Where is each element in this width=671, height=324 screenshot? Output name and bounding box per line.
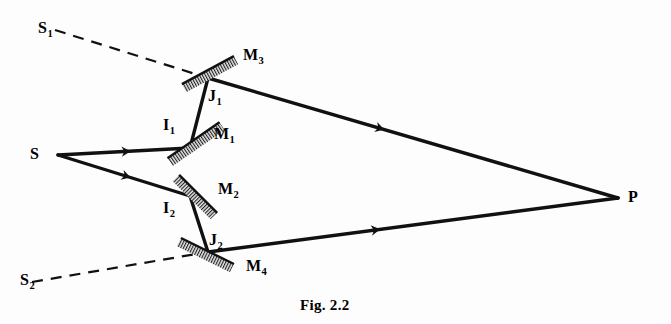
optics-ray-diagram (0, 0, 671, 324)
point-label-i1-subscript: 1 (169, 125, 175, 136)
ray-S2-J2 (32, 252, 208, 282)
point-label-j2-base: J (209, 231, 217, 248)
mirror-label-m2-subscript: 2 (233, 189, 239, 200)
point-label-p: P (628, 189, 638, 205)
point-label-s1: S1 (38, 20, 53, 40)
point-label-s1-subscript: 1 (47, 28, 53, 39)
mirror-label-m4-base: M (246, 257, 261, 274)
mirror-label-m1-base: M (214, 125, 229, 142)
figure-container: SS1S2I1I2J1J2PM1M2M3M4 Fig. 2.2 (0, 0, 671, 324)
point-label-j1-subscript: 1 (216, 96, 222, 107)
mirror-label-m2-base: M (218, 180, 233, 197)
mirror-label-m3-subscript: 3 (258, 55, 264, 66)
ray-J1-P-line (208, 78, 618, 198)
mirror-label-m1-subscript: 1 (229, 134, 235, 145)
point-label-i2-subscript: 2 (169, 208, 175, 219)
ray-S2-J2-line (32, 252, 208, 282)
point-label-j1-base: J (208, 87, 216, 104)
mirror-label-m1: M1 (214, 126, 235, 146)
mirror-label-m4: M4 (246, 258, 267, 278)
rays-layer (32, 30, 618, 282)
point-label-s-base: S (30, 145, 39, 162)
point-label-s: S (30, 146, 39, 162)
point-label-p-base: P (628, 188, 638, 205)
point-label-j2-subscript: 2 (217, 240, 223, 251)
figure-caption: Fig. 2.2 (300, 297, 349, 314)
point-label-s2: S2 (20, 272, 35, 292)
ray-J2-P-line (208, 198, 618, 252)
mirror-label-m3-base: M (243, 46, 258, 63)
point-label-s1-base: S (38, 19, 47, 36)
point-label-j1: J1 (208, 88, 222, 108)
ray-S1-J1 (55, 30, 208, 78)
ray-J2-P (208, 198, 618, 252)
ray-J1-P (208, 78, 618, 198)
point-label-j2: J2 (209, 232, 223, 252)
ray-S1-J1-line (55, 30, 208, 78)
mirror-label-m2: M2 (218, 181, 239, 201)
point-label-i1: I1 (163, 117, 175, 137)
mirror-label-m4-subscript: 4 (261, 266, 267, 277)
point-label-s2-base: S (20, 271, 29, 288)
point-label-i2: I2 (163, 200, 175, 220)
point-label-s2-subscript: 2 (29, 280, 35, 291)
mirror-label-m3: M3 (243, 47, 264, 67)
